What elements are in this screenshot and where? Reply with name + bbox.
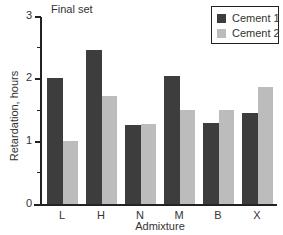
bar-N-cement-2 <box>141 124 157 204</box>
x-tick-label-X: X <box>242 209 272 221</box>
bar-chart: Final set Retardation, hours 0 1 2 3 L H… <box>0 0 283 235</box>
bar-M-cement-1 <box>164 76 180 204</box>
legend: Cement 1 Cement 2 <box>211 6 279 44</box>
bar-X-cement-2 <box>258 87 274 204</box>
y-axis-label: Retardation, hours <box>8 66 20 166</box>
bar-H-cement-1 <box>86 50 102 204</box>
chart-title: Final set <box>51 3 93 15</box>
y-tick-label-2: 2 <box>20 71 32 83</box>
legend-swatch-cement-1 <box>217 14 226 23</box>
y-tick-3 <box>35 16 41 18</box>
bar-L-cement-2 <box>63 141 79 204</box>
y-tick-minor <box>37 110 41 111</box>
x-axis-label: Admixture <box>120 220 200 232</box>
y-tick-1 <box>35 141 41 143</box>
bar-L-cement-1 <box>47 78 63 204</box>
y-tick-0 <box>35 204 41 206</box>
bar-B-cement-1 <box>203 123 219 204</box>
legend-item-cement-1: Cement 1 <box>217 11 280 25</box>
bar-H-cement-2 <box>102 96 118 204</box>
y-tick-2 <box>35 78 41 80</box>
x-tick-label-B: B <box>203 209 233 221</box>
y-tick-minor <box>37 172 41 173</box>
y-tick-minor <box>37 47 41 48</box>
y-tick-label-1: 1 <box>20 134 32 146</box>
legend-label-cement-1: Cement 1 <box>232 12 280 24</box>
bar-N-cement-1 <box>125 125 141 204</box>
bar-M-cement-2 <box>180 110 196 205</box>
bar-X-cement-1 <box>242 113 258 204</box>
x-tick-label-H: H <box>86 209 116 221</box>
bar-B-cement-2 <box>219 110 235 205</box>
y-tick-label-0: 0 <box>20 197 32 209</box>
legend-item-cement-2: Cement 2 <box>217 26 280 40</box>
legend-swatch-cement-2 <box>217 29 226 38</box>
legend-label-cement-2: Cement 2 <box>232 27 280 39</box>
y-axis <box>40 17 42 205</box>
x-tick-label-L: L <box>47 209 77 221</box>
y-tick-label-3: 3 <box>20 9 32 21</box>
x-axis <box>34 204 277 206</box>
